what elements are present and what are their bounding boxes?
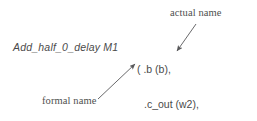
module-instantiation-figure: Add_half_0_delay M1 ( .b (b), .c_out (w2… bbox=[0, 0, 257, 121]
port-list-open-line: ( .b (b), bbox=[137, 64, 199, 76]
annotation-arrow-layer bbox=[0, 0, 257, 121]
port-connection-item: .c_out (w2), bbox=[144, 99, 199, 111]
instance-declaration: Add_half_0_delay M1 bbox=[13, 41, 118, 53]
instance-identifier: M1 bbox=[103, 41, 118, 53]
actual-name-callout-label: actual name bbox=[170, 7, 222, 18]
formal-name-callout-label: formal name bbox=[42, 95, 96, 106]
port-connection-list: ( .b (b), .c_out (w2), .a (a), .sum (w1)… bbox=[137, 41, 199, 121]
module-type-name: Add_half_0_delay bbox=[13, 41, 100, 53]
formal-name-arrow-icon bbox=[98, 64, 135, 99]
